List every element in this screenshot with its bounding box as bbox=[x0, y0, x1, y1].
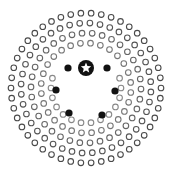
hollow-dot bbox=[69, 117, 75, 123]
hollow-dot-rings bbox=[8, 10, 164, 165]
hollow-dot bbox=[99, 127, 105, 133]
hollow-dot bbox=[141, 133, 147, 139]
hollow-dot bbox=[88, 10, 94, 16]
hollow-dot bbox=[99, 33, 105, 39]
hollow-dot bbox=[147, 99, 153, 105]
hollow-dot bbox=[152, 55, 158, 61]
hollow-dot bbox=[50, 95, 56, 101]
hollow-dot bbox=[100, 148, 106, 154]
hollow-dot bbox=[137, 96, 143, 102]
hollow-dot bbox=[89, 31, 95, 37]
hollow-dot bbox=[108, 123, 114, 129]
hollow-dot bbox=[59, 47, 65, 53]
hollow-dot bbox=[69, 32, 75, 38]
hollow-dot bbox=[50, 141, 56, 147]
hollow-dot bbox=[78, 41, 84, 47]
hollow-dot bbox=[50, 75, 56, 81]
hollow-dot bbox=[79, 30, 85, 36]
hollow-dot bbox=[139, 118, 145, 124]
star-marker[interactable] bbox=[78, 60, 94, 76]
hollow-dot bbox=[117, 42, 123, 48]
filled-dot bbox=[103, 64, 110, 71]
hollow-dot bbox=[137, 76, 143, 82]
hollow-dot bbox=[25, 38, 31, 44]
hollow-dot bbox=[113, 104, 119, 110]
hollow-dot bbox=[134, 30, 140, 36]
hollow-dot bbox=[68, 43, 74, 49]
hollow-dot bbox=[69, 128, 75, 134]
hollow-dot bbox=[122, 109, 128, 115]
hollow-dot bbox=[118, 85, 124, 91]
hollow-dot bbox=[155, 65, 161, 71]
hollow-dot bbox=[40, 24, 46, 30]
hollow-dot bbox=[131, 57, 137, 63]
hollow-dot bbox=[11, 65, 17, 71]
hollow-dot bbox=[158, 75, 164, 81]
hollow-dot bbox=[78, 160, 84, 166]
hollow-dot bbox=[129, 115, 135, 121]
hollow-dot bbox=[49, 128, 55, 134]
hollow-dot bbox=[90, 150, 96, 156]
hollow-dot bbox=[79, 150, 85, 156]
hollow-dot bbox=[109, 36, 115, 42]
hollow-dot bbox=[28, 84, 34, 90]
hollow-dot bbox=[121, 61, 127, 67]
hollow-dot bbox=[68, 12, 74, 18]
hollow-dot bbox=[78, 120, 84, 126]
hollow-dot bbox=[67, 22, 73, 28]
hollow-dot bbox=[35, 128, 41, 134]
hollow-dot bbox=[126, 146, 132, 152]
filled-dot bbox=[98, 111, 105, 118]
hollow-dot bbox=[60, 124, 66, 130]
hollow-dot bbox=[118, 152, 124, 158]
hollow-dot bbox=[27, 52, 33, 58]
hollow-dot bbox=[107, 135, 113, 141]
hollow-dot bbox=[146, 69, 152, 75]
hollow-dot bbox=[29, 74, 35, 80]
hollow-dot bbox=[58, 134, 64, 140]
hollow-dot bbox=[45, 62, 51, 68]
hollow-dot bbox=[51, 54, 57, 60]
hollow-dot bbox=[98, 43, 104, 49]
hollow-dot bbox=[41, 71, 47, 77]
hollow-dot bbox=[67, 138, 73, 144]
hollow-dot bbox=[88, 120, 94, 126]
hollow-dot bbox=[135, 66, 141, 72]
hollow-dot bbox=[125, 49, 131, 55]
hollow-dot bbox=[77, 140, 83, 146]
hollow-dot bbox=[126, 134, 132, 140]
hollow-dot bbox=[57, 26, 63, 32]
hollow-dot bbox=[42, 121, 48, 127]
hollow-dot bbox=[32, 140, 38, 146]
hollow-dot bbox=[58, 15, 64, 21]
hollow-dot bbox=[51, 41, 57, 47]
filled-dot bbox=[64, 64, 71, 71]
hollow-dot bbox=[14, 55, 20, 61]
hollow-dot bbox=[42, 135, 48, 141]
hollow-dot bbox=[60, 35, 66, 41]
hollow-dot bbox=[79, 130, 85, 136]
hollow-dot bbox=[126, 100, 132, 106]
hollow-dot bbox=[155, 105, 161, 111]
hollow-dot bbox=[89, 130, 95, 136]
hollow-dot bbox=[9, 95, 15, 101]
hollow-dot bbox=[126, 24, 132, 30]
hollow-dot bbox=[123, 123, 129, 129]
hollow-dot bbox=[32, 104, 38, 110]
hollow-dot bbox=[138, 50, 144, 56]
hollow-dot bbox=[147, 46, 153, 52]
hollow-dot bbox=[148, 79, 154, 85]
hollow-dot bbox=[11, 105, 17, 111]
hollow-dot bbox=[125, 70, 131, 76]
hollow-dot bbox=[28, 120, 34, 126]
hollow-dot bbox=[124, 35, 130, 41]
hollow-dot bbox=[115, 130, 121, 136]
hollow-dot bbox=[20, 71, 26, 77]
hollow-dot bbox=[38, 81, 44, 87]
hollow-dot bbox=[128, 90, 134, 96]
hollow-dot bbox=[54, 104, 60, 110]
hollow-dot bbox=[108, 15, 114, 21]
hollow-dot bbox=[32, 64, 38, 70]
hollow-dot bbox=[33, 44, 39, 50]
hollow-dot bbox=[36, 113, 42, 119]
